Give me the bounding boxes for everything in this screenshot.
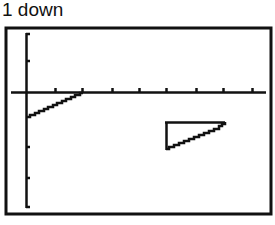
graph-frame — [6, 28, 271, 214]
triangle-shape — [165, 122, 225, 150]
rising-line-segment — [27, 93, 83, 117]
calculator-graph — [0, 0, 275, 225]
